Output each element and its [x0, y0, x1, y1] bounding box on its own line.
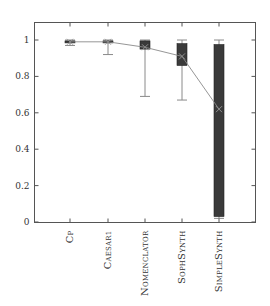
- y-tick-label: 0.4: [15, 144, 30, 154]
- x-axis: CPCAESAR1NOMENCLATORSOPHSYNTHSIMPLESYNTH: [64, 23, 224, 296]
- x-category-label: CP: [64, 230, 75, 243]
- box-simplesynth: [214, 40, 224, 218]
- box-caesar1: [103, 39, 113, 55]
- y-tick-label: 0: [24, 217, 30, 227]
- x-category-label: SIMPLESYNTH: [213, 231, 224, 293]
- y-tick-label: 1: [24, 35, 30, 45]
- y-tick-label: 0.8: [15, 71, 30, 81]
- x-category-label: CAESAR1: [102, 231, 113, 270]
- box-series: [65, 39, 224, 219]
- box-iqr: [214, 45, 224, 217]
- box-sophsynth: [177, 40, 187, 100]
- box-iqr: [177, 44, 187, 66]
- x-category-label: SOPHSYNTH: [176, 231, 187, 285]
- y-tick-label: 0.2: [15, 181, 29, 191]
- box-plot-chart: 00.20.40.60.81 CPCAESAR1NOMENCLATORSOPHS…: [0, 0, 270, 306]
- y-tick-label: 0.6: [15, 108, 30, 118]
- x-category-label: NOMENCLATOR: [139, 230, 150, 296]
